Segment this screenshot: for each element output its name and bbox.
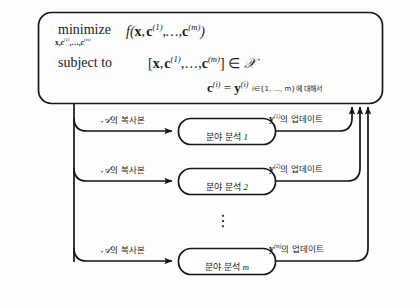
input-label-1: 𝒜의 복사본	[101, 115, 145, 125]
constraint-membership: [x, c(1),…,c(m)] ∈ 𝒳	[148, 55, 256, 71]
node-label-1: 분야 분석 1	[181, 130, 273, 143]
return-arrow-3	[276, 107, 368, 261]
output-label-1: y(1)의 업데이트	[269, 114, 323, 124]
subject-to-label: subject to	[58, 56, 112, 70]
constraint-equality: c(i) = y(i)	[207, 81, 248, 94]
node-label-2: 분야 분석 2	[181, 180, 273, 193]
vertical-ellipsis: ⋮	[215, 213, 231, 229]
objective-function: f(x, c(1),…,c(m))	[126, 23, 205, 39]
output-label-2: y(2)의 업데이트	[269, 164, 323, 174]
input-label-2: 𝒜의 복사본	[101, 165, 145, 175]
output-label-3: y(m)의 업데이트	[269, 244, 324, 254]
node-label-3: 분야 분석 m	[181, 260, 273, 273]
constraint-range: i∈{1, ..., m}에 대해서	[252, 86, 322, 93]
minimize-subscript: x,c(1),…,c(m)	[55, 38, 90, 46]
input-label-3: 𝒜의 복사본	[101, 245, 145, 255]
diagram-root: minimize x,c(1),…,c(m) f(x, c(1),…,c(m))…	[0, 0, 417, 306]
minimize-label: minimize	[58, 23, 111, 37]
